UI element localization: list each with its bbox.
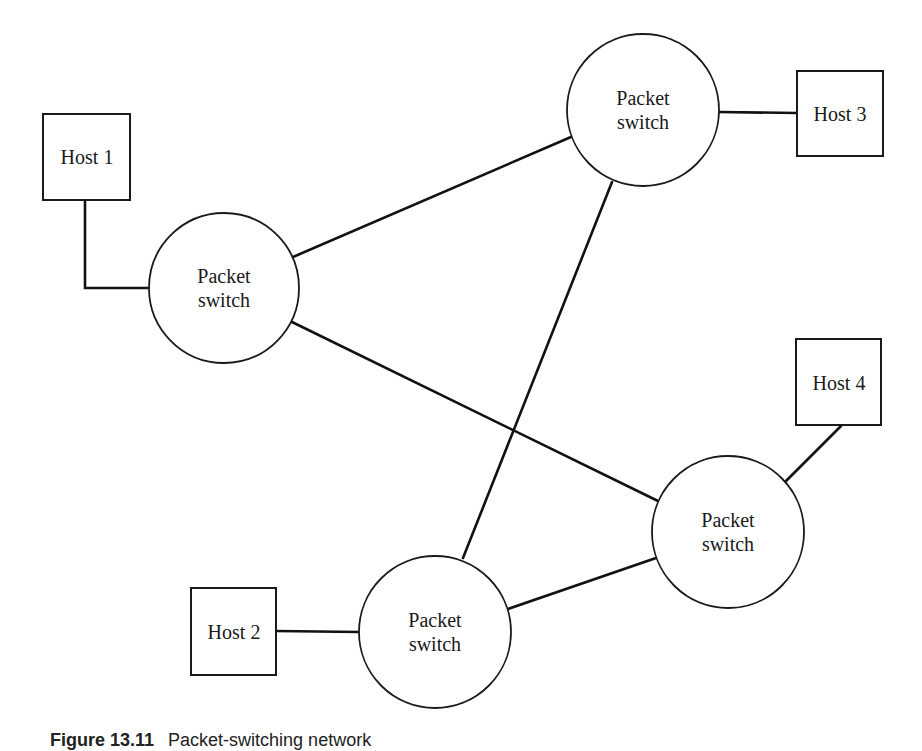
figure-caption-text: Packet-switching network [168,730,371,750]
link-switch-top-switch-bottom [463,182,612,558]
host-label-1: Host 1 [61,145,114,169]
switch-label-right: Packet switch [668,508,788,556]
switch-label-top: Packet switch [583,86,703,134]
link-host3-switch-top [719,112,797,113]
switch-label-line2: switch [375,632,495,656]
link-switch-bottom-switch-right [508,558,656,609]
link-switch-left-switch-right [292,322,658,501]
host-label-4: Host 4 [813,371,866,395]
link-host4-switch-right [786,426,841,481]
switch-label-line2: switch [583,110,703,134]
switch-label-line1: Packet [375,608,495,632]
figure-caption: Figure 13.11Packet-switching network [50,729,371,751]
switch-label-line2: switch [668,532,788,556]
host-label-2: Host 2 [208,620,261,644]
switch-label-left: Packet switch [164,264,284,312]
switch-label-line1: Packet [164,264,284,288]
switch-label-line1: Packet [668,508,788,532]
switch-label-line2: switch [164,288,284,312]
link-switch-left-switch-top [293,137,571,257]
switch-label-line1: Packet [583,86,703,110]
switch-label-bottom: Packet switch [375,608,495,656]
link-host1-switch-left [85,200,149,288]
figure-number: Figure 13.11 [50,730,154,750]
link-host2-switch-bottom [276,631,359,632]
host-label-3: Host 3 [814,102,867,126]
